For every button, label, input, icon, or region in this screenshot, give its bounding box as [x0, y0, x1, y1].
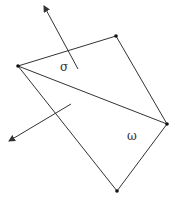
vertex-left	[16, 64, 20, 68]
omega-normal-arrow	[9, 104, 71, 141]
omega-label: ω	[127, 129, 137, 143]
edge-bottom-right	[117, 124, 167, 191]
vertex-top	[114, 34, 118, 38]
sigma-label: σ	[60, 60, 68, 74]
edge-top-right	[116, 36, 167, 124]
diagram-canvas: σ ω	[0, 0, 175, 209]
vertex-bottom	[115, 189, 119, 193]
vertex-right	[165, 122, 169, 126]
